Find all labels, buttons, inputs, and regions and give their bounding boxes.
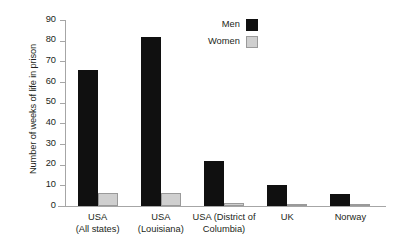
gray-square-swatch [246,36,258,48]
chart-legend: MenWomen [208,16,258,50]
y-axis-tick-label: 10 [28,180,56,189]
y-axis-tick-label: 60 [28,77,56,86]
y-axis-tick-label: 40 [28,118,56,127]
legend-entry-label: Women [208,37,240,46]
x-axis-category-label: Norway [307,211,394,223]
y-axis-tick-label: 30 [28,139,56,148]
bar-chart-figure: Number of weeks of life in prison 010203… [0,0,394,250]
x-axis-category-label-line: Norway [307,211,394,223]
legend-entry: Women [208,33,258,50]
y-axis-title: Number of weeks of life in prison [28,19,38,199]
y-axis-tick-label: 80 [28,35,56,44]
bar-women [224,203,244,206]
black-square-swatch [246,19,258,31]
y-axis-tick-label: 20 [28,159,56,168]
bar-men [267,185,287,206]
legend-entry: Men [208,16,258,33]
bar-women [350,204,370,206]
legend-entry-label: Men [222,20,240,29]
bar-women [98,193,118,206]
bar-men [330,194,350,206]
bar-women [161,193,181,206]
bar-men [78,70,98,206]
y-axis-tick-label: 0 [28,201,56,210]
x-axis-line [58,206,386,207]
bar-men [204,161,224,206]
y-axis-tick-label: 50 [28,97,56,106]
bar-men [141,37,161,206]
x-axis-category-label-line: Columbia) [180,223,267,235]
y-axis-tick-label: 70 [28,56,56,65]
bar-women [287,204,307,206]
y-axis-tick-label: 90 [28,15,56,24]
